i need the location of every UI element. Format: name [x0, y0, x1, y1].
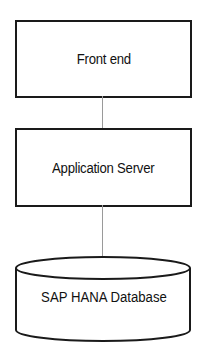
- sap-hana-database-node: SAP HANA Database: [15, 288, 192, 306]
- sap-hana-database-label: SAP HANA Database: [41, 288, 167, 306]
